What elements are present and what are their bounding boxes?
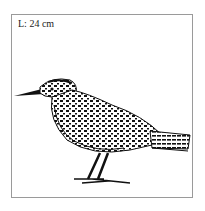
bird-icon <box>12 75 192 195</box>
length-label: L: 24 cm <box>18 18 54 29</box>
